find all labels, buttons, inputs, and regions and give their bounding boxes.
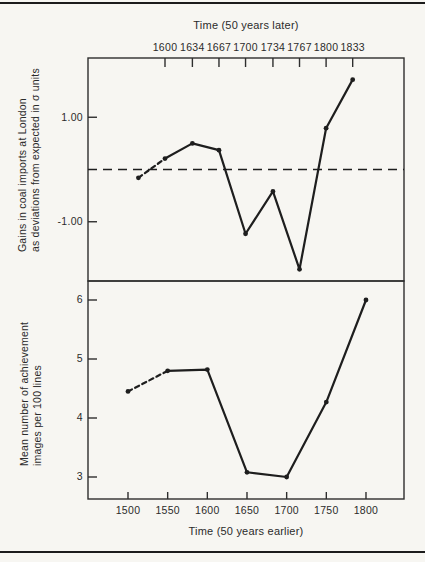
data-point-marker (245, 470, 250, 475)
data-point-marker (126, 389, 131, 394)
data-point-marker (364, 298, 369, 303)
series-dashed-segment (138, 159, 165, 178)
chart-svg (0, 0, 425, 562)
data-point-marker (297, 267, 302, 272)
data-point-marker (163, 156, 168, 161)
data-point-marker (324, 126, 329, 131)
bottom-axis-title: Time (50 years earlier) (88, 525, 404, 537)
series-dashed-segment (128, 371, 168, 392)
data-point-marker (271, 189, 276, 194)
series-line (168, 300, 366, 477)
data-point-marker (243, 231, 248, 236)
data-point-marker (217, 148, 222, 153)
data-point-marker (284, 475, 289, 480)
data-point-marker (136, 175, 141, 180)
figure: Time (50 years later) Gains in coal impo… (0, 0, 425, 562)
data-point-marker (190, 141, 195, 146)
data-point-marker (324, 400, 329, 405)
panel-border-bottom (88, 281, 404, 499)
data-point-marker (205, 367, 210, 372)
data-point-marker (350, 77, 355, 82)
series-line (165, 80, 353, 270)
data-point-marker (165, 368, 170, 373)
